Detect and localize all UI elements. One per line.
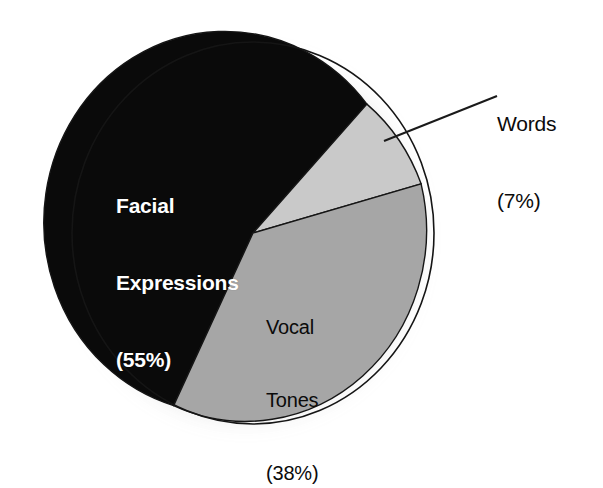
slice-label-vocal-tones-line2: Tones	[266, 388, 318, 412]
slice-label-vocal-tones-line1: Vocal	[266, 315, 318, 339]
slice-label-words-line1: Words	[497, 111, 556, 137]
slice-label-facial-expressions-line2: Expressions	[116, 270, 239, 296]
words-leader-line	[384, 96, 497, 141]
slice-label-facial-expressions-value: (55%)	[116, 347, 239, 373]
slice-label-vocal-tones-value: (38%)	[266, 461, 318, 485]
slice-label-words-value: (7%)	[497, 188, 556, 214]
slice-label-words: Words (7%)	[497, 60, 556, 265]
slice-label-facial-expressions: Facial Expressions (55%)	[116, 142, 239, 424]
slice-label-facial-expressions-line1: Facial	[116, 193, 239, 219]
slice-label-vocal-tones: Vocal Tones (38%)	[266, 266, 318, 488]
